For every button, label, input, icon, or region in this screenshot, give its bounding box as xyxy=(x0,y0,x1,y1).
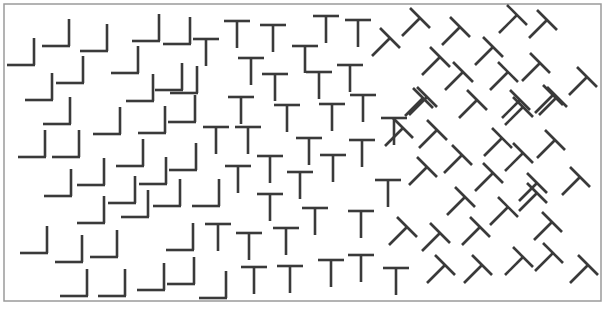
texture-segmentation-stimulus xyxy=(0,0,607,309)
